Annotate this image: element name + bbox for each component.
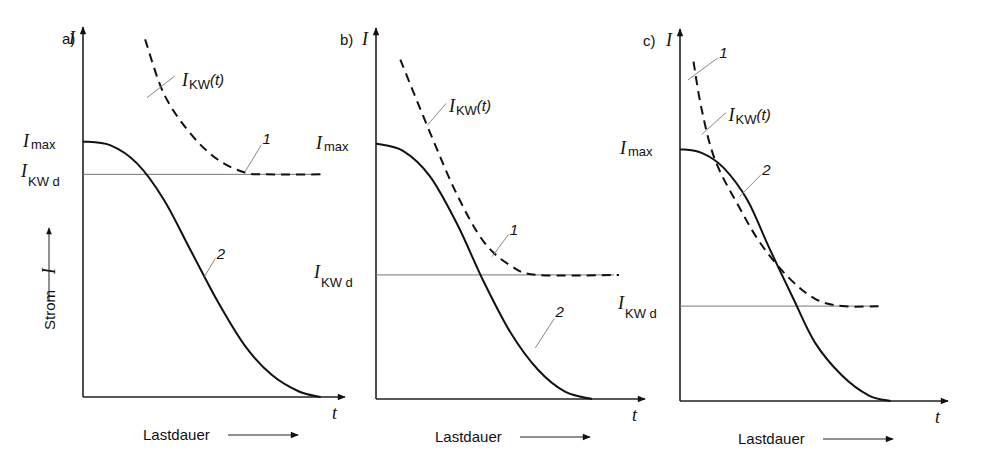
ikw-subscript: KW — [736, 112, 758, 127]
imax-label: Imax — [22, 131, 56, 152]
curve-1-leader-line — [688, 58, 718, 80]
curve-2-number: 2 — [761, 161, 771, 178]
ikw-t-label: IKW(t) — [181, 70, 224, 92]
ikw-subscript: KW — [189, 77, 211, 92]
ikw-suffix: (t) — [757, 106, 771, 123]
panel-a: a)ItLastdauerImaxIKW dIKW(t)12 — [20, 27, 345, 443]
imax-label: Imax — [619, 138, 653, 159]
x-axis-symbol: t — [332, 403, 338, 423]
ikwd-label: IKW d — [313, 262, 353, 290]
ikwd-subscript: KW d — [28, 174, 60, 189]
y-axis-symbol: I — [68, 28, 76, 48]
ikw-curve-1 — [145, 39, 326, 174]
load-curve-2 — [680, 149, 891, 401]
ikw-curve-1 — [694, 62, 883, 307]
curve-1-leader-line — [245, 145, 261, 172]
ikw-suffix: (t) — [477, 97, 491, 114]
load-curve-2 — [83, 142, 321, 398]
ikwd-label: IKW d — [617, 293, 657, 321]
x-axis-title: Lastdauer — [435, 428, 502, 445]
curve-2-number: 2 — [555, 303, 565, 320]
curve-2-leader-line — [535, 319, 554, 348]
panel-c: c)ItLastdauerImaxIKW dIKW(t)12 — [617, 29, 948, 447]
ikwd-label: IKW d — [20, 161, 60, 189]
y-axis-symbol: I — [665, 30, 673, 50]
imax-symbol: I — [315, 133, 323, 153]
panel-b: b)ItLastdauerImaxIKW dIKW(t)12 — [313, 28, 645, 445]
ikw-symbol: I — [728, 105, 736, 125]
curve-1-number: 1 — [263, 130, 271, 147]
ikw-leader-line — [427, 103, 446, 125]
curve-2-leader-line — [739, 175, 761, 197]
curve-2-leader-line — [205, 258, 216, 276]
ikwd-symbol: I — [313, 262, 321, 282]
curve-1-number: 1 — [719, 44, 727, 61]
imax-symbol: I — [22, 131, 30, 151]
ikw-t-label: IKW(t) — [728, 105, 771, 127]
imax-label: Imax — [315, 133, 349, 154]
ikw-t-label: IKW(t) — [448, 96, 491, 118]
x-axis-symbol: t — [935, 407, 941, 427]
imax-subscript: max — [628, 144, 653, 159]
panel-label: c) — [643, 32, 656, 49]
ikw-suffix: (t) — [210, 71, 224, 88]
ikw-symbol: I — [181, 70, 189, 90]
curve-2-number: 2 — [216, 245, 226, 262]
curve-1-number: 1 — [510, 221, 518, 238]
load-curve-2 — [376, 144, 592, 400]
curve-1-leader-line — [492, 235, 508, 257]
imax-subscript: max — [31, 137, 56, 152]
imax-subscript: max — [324, 139, 349, 154]
imax-symbol: I — [619, 138, 627, 158]
x-axis-title: Lastdauer — [143, 426, 210, 443]
ikw-subscript: KW — [456, 103, 478, 118]
x-axis-symbol: t — [632, 405, 638, 425]
ikwd-subscript: KW d — [625, 306, 657, 321]
ikwd-symbol: I — [617, 293, 625, 313]
figure: Strom I a)ItLastdauerImaxIKW dIKW(t)12b)… — [0, 0, 988, 455]
ikw-symbol: I — [448, 96, 456, 116]
y-axis-symbol: I — [361, 29, 369, 49]
x-axis-title: Lastdauer — [738, 430, 805, 447]
ikwd-subscript: KW d — [321, 275, 353, 290]
ikw-curve-1 — [400, 60, 619, 276]
ikwd-symbol: I — [20, 161, 28, 181]
panel-label: b) — [340, 31, 353, 48]
ikw-leader-line — [147, 76, 175, 98]
